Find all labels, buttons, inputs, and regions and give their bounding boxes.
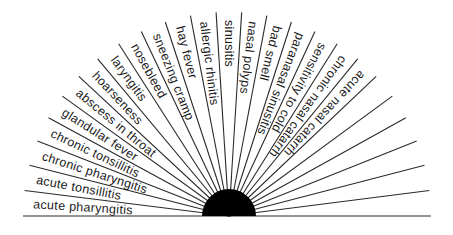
label-group: acute pharyngitisacute tonsillitischroni… xyxy=(33,20,368,217)
radial-fan-diagram: acute pharyngitisacute tonsillitischroni… xyxy=(0,0,453,235)
sector-label-group: sinusitis xyxy=(222,20,236,67)
sector-label: sinusitis xyxy=(222,20,236,67)
ray-line xyxy=(229,141,417,216)
ray-line xyxy=(229,165,425,216)
